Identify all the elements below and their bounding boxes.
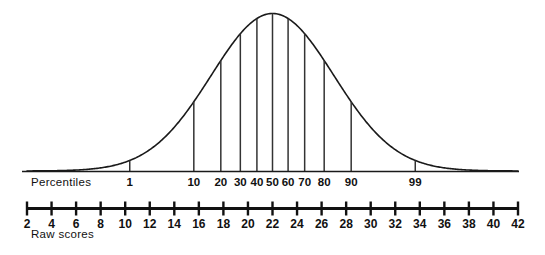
- raw-score-label-10: 10: [119, 217, 133, 231]
- raw-score-label-30: 30: [364, 217, 378, 231]
- raw-score-label-24: 24: [290, 217, 304, 231]
- normal-curve-figure: Percentiles 110203040506070809099 246810…: [0, 0, 545, 255]
- percentile-label-30: 30: [234, 176, 247, 188]
- raw-score-label-18: 18: [217, 217, 231, 231]
- percentile-label-20: 20: [214, 176, 227, 188]
- raw-score-label-40: 40: [487, 217, 501, 231]
- raw-score-label-22: 22: [266, 217, 280, 231]
- raw-score-label-34: 34: [413, 217, 427, 231]
- percentile-label-99: 99: [409, 176, 422, 188]
- raw-score-label-42: 42: [511, 217, 525, 231]
- percentile-label-60: 60: [282, 176, 295, 188]
- raw-scores-axis-caption: Raw scores: [31, 228, 94, 240]
- percentile-label-80: 80: [318, 176, 331, 188]
- raw-score-label-36: 36: [438, 217, 452, 231]
- raw-score-label-28: 28: [339, 217, 353, 231]
- raw-score-label-38: 38: [462, 217, 476, 231]
- percentile-tick-labels: 110203040506070809099: [127, 176, 422, 188]
- raw-score-label-14: 14: [168, 217, 182, 231]
- percentile-ordinate-lines: [130, 14, 416, 172]
- percentile-label-10: 10: [187, 176, 200, 188]
- raw-score-label-16: 16: [192, 217, 206, 231]
- raw-score-axis-group: 24681012141618202224262830323436384042: [24, 202, 525, 232]
- raw-score-label-8: 8: [97, 217, 104, 231]
- raw-score-label-12: 12: [143, 217, 157, 231]
- raw-score-label-26: 26: [315, 217, 329, 231]
- raw-score-label-32: 32: [389, 217, 403, 231]
- percentile-label-90: 90: [345, 176, 358, 188]
- raw-score-ticks: [27, 202, 518, 216]
- percentiles-axis-caption: Percentiles: [31, 176, 91, 188]
- percentile-label-1: 1: [127, 176, 134, 188]
- percentile-label-50: 50: [266, 176, 279, 188]
- raw-score-tick-labels: 24681012141618202224262830323436384042: [24, 217, 525, 231]
- raw-score-label-20: 20: [241, 217, 255, 231]
- percentile-label-40: 40: [251, 176, 264, 188]
- raw-score-label-2: 2: [24, 217, 31, 231]
- percentile-label-70: 70: [298, 176, 311, 188]
